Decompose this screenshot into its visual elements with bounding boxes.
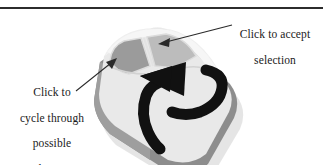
- callout-accept-selection: Click to accept selection: [229, 15, 321, 79]
- callout-accept-line-2: selection: [229, 54, 321, 67]
- figure-container: Click to accept selection Click to cycle…: [0, 0, 323, 165]
- callout-cycle-line-2: cycle through: [8, 112, 96, 125]
- callout-cycle-line-1: Click to: [8, 86, 96, 99]
- callout-cycle-line-4: selections: [8, 163, 96, 165]
- callout-cycle-selections: Click to cycle through possible selectio…: [8, 73, 96, 165]
- callout-accept-line-1: Click to accept: [229, 28, 321, 41]
- callout-cycle-line-3: possible: [8, 137, 96, 150]
